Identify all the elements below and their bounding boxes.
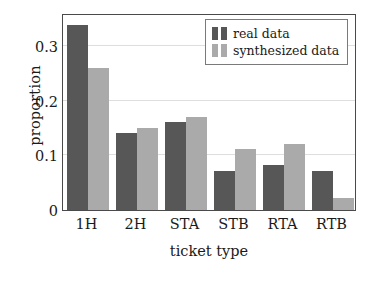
bar-group [116,15,158,210]
y-tick-label: 0.2 [12,95,58,110]
x-tick-label-2h: 2H [111,214,160,234]
bar-group [165,15,207,210]
bar-1h-real [67,25,88,210]
y-tick-label: 0 [12,204,58,219]
legend-swatch-icon [221,27,227,40]
x-tick-label-stb: STB [209,214,258,234]
x-axis-title: ticket type [62,243,356,259]
bar-rtb-synth [333,198,354,210]
legend-label: real data [233,26,290,41]
bar-rta-synth [284,144,305,210]
x-tick-label-rta: RTA [258,214,307,234]
bar-group [67,15,109,210]
bar-2h-real [116,133,137,210]
bar-chart-figure: proportion 00.10.20.3 1H2HSTASTBRTARTB t… [0,0,377,281]
x-axis-tick-labels: 1H2HSTASTBRTARTB [62,214,356,238]
y-tick-label: 0.1 [12,149,58,164]
x-tick-label-rtb: RTB [307,214,356,234]
bar-sta-synth [186,117,207,210]
bar-1h-synth [88,68,109,210]
legend-swatch-icon [221,44,227,57]
bar-rta-real [263,165,284,210]
legend-swatch-icon [212,27,218,40]
bar-2h-synth [137,128,158,210]
x-tick-label-sta: STA [160,214,209,234]
bar-stb-real [214,171,235,210]
y-tick-label: 0.3 [12,40,58,55]
bar-rtb-real [312,171,333,210]
chart-legend: real datasynthesized data [205,19,348,65]
bar-sta-real [165,122,186,210]
legend-swatch-group [212,27,227,40]
bar-stb-synth [235,149,256,210]
legend-swatch-group [212,44,227,57]
legend-entry-real-data: real data [212,25,339,42]
legend-label: synthesized data [233,43,339,58]
x-tick-label-1h: 1H [62,214,111,234]
legend-entry-synthesized-data: synthesized data [212,42,339,59]
y-axis-tick-labels: 00.10.20.3 [12,0,58,281]
legend-swatch-icon [212,44,218,57]
